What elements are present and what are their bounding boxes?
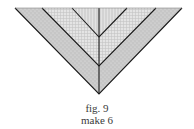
- figure-instruction: make 6: [0, 114, 194, 126]
- triangle-diagram: [0, 0, 194, 100]
- quilt-triangle-figure: [0, 0, 194, 100]
- figure-label: fig. 9: [0, 102, 194, 114]
